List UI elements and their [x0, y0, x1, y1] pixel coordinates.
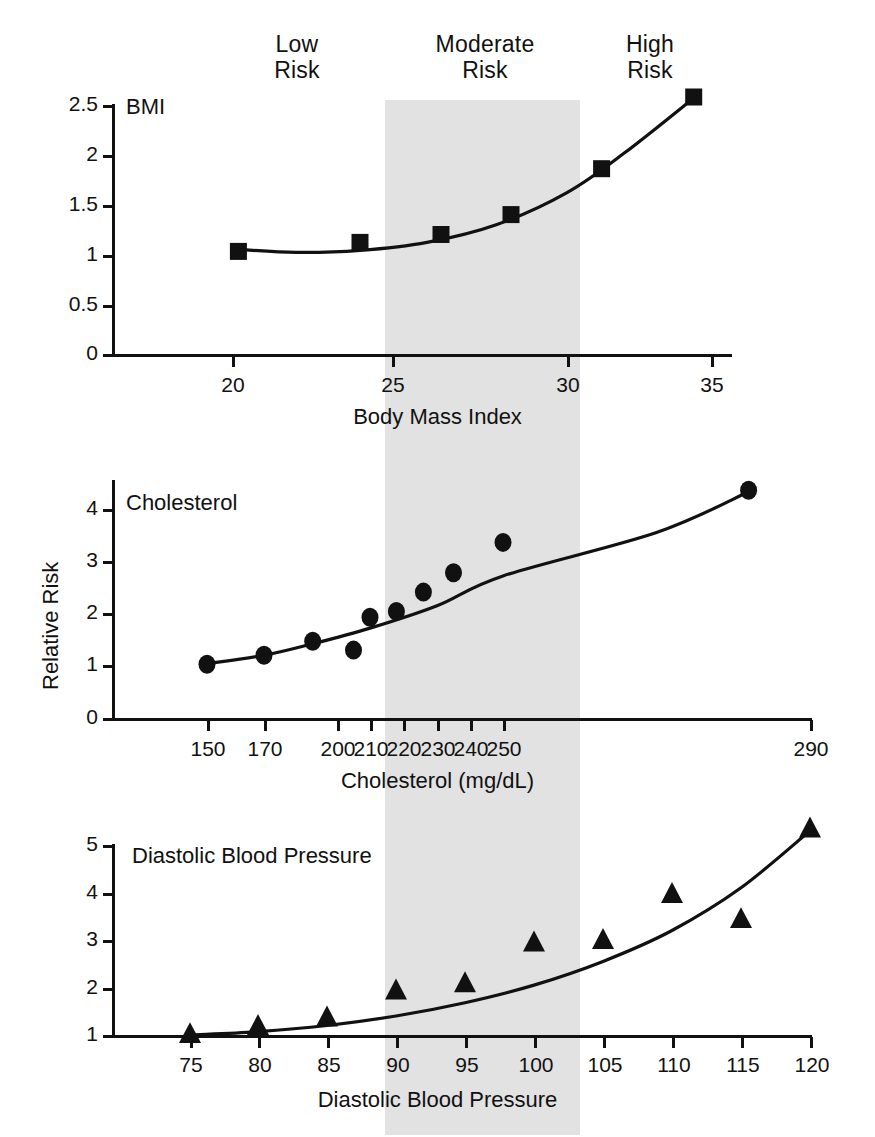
- dbp-fit-curve: [190, 831, 810, 1035]
- data-point-marker: [316, 1006, 338, 1027]
- data-point-marker: [799, 817, 821, 838]
- chart-panel-diastolic-bp: 5 4 3 2 1 75 80 85 90 95 100 105 110 115…: [0, 0, 875, 1137]
- data-point-marker: [523, 931, 545, 952]
- data-point-marker: [661, 882, 683, 903]
- data-point-marker: [592, 928, 614, 949]
- data-point-marker: [385, 979, 407, 1000]
- data-point-marker: [454, 971, 476, 992]
- dbp-plot-svg: [0, 0, 875, 1137]
- data-point-marker: [179, 1022, 201, 1043]
- data-point-marker: [247, 1014, 269, 1035]
- data-point-marker: [730, 907, 752, 928]
- figure-canvas: Low Risk Moderate Risk High Risk 2.5 2 1…: [0, 0, 875, 1137]
- dbp-markers: [179, 817, 821, 1044]
